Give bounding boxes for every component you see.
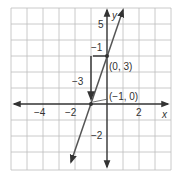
coordinate-plane: y x −4 −2 2 5 −2 −1 −3 (0, 3) (−1, 0) — [0, 0, 183, 176]
tick-label-2: 2 — [136, 107, 142, 118]
leader-line — [93, 99, 108, 102]
tick-label-yneg2: −2 — [91, 130, 103, 141]
y-axis-label: y — [111, 10, 118, 21]
point-label-0-3: (0, 3) — [109, 61, 132, 72]
tick-label-y5: 5 — [98, 19, 104, 30]
tick-label-neg2: −2 — [65, 107, 77, 118]
point-neg1-0 — [89, 102, 93, 106]
point-0-3 — [105, 54, 109, 58]
rise-label: −3 — [72, 76, 84, 87]
run-label: −1 — [91, 42, 103, 53]
tick-label-neg4: −4 — [34, 107, 46, 118]
x-axis-label: x — [161, 109, 168, 120]
point-label-neg1-0: (−1, 0) — [109, 91, 138, 102]
